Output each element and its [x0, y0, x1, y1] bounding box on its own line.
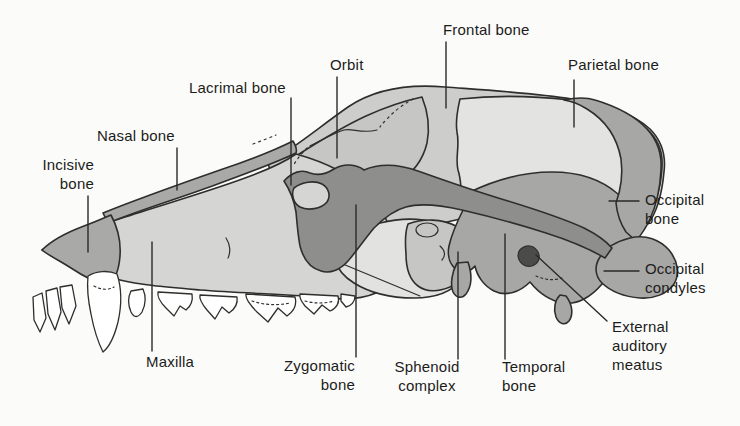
- label-zygomatic-bone: Zygomatic bone: [272, 356, 355, 394]
- pterygoid-process: [452, 262, 471, 297]
- label-occipital-condyles: Occipital condyles: [645, 259, 723, 297]
- label-frontal-bone: Frontal bone: [443, 20, 530, 39]
- label-sphenoid-complex: Sphenoid complex: [385, 357, 469, 395]
- label-occipital-bone: Occipital bone: [645, 190, 717, 228]
- label-incisive-bone: Incisive bone: [28, 155, 94, 193]
- label-lacrimal-bone: Lacrimal bone: [189, 78, 286, 97]
- label-orbit: Orbit: [330, 55, 364, 74]
- label-parietal-bone: Parietal bone: [568, 55, 659, 74]
- label-nasal-bone: Nasal bone: [97, 126, 175, 145]
- label-external-auditory-meatus: External auditory meatus: [612, 317, 682, 374]
- label-maxilla: Maxilla: [146, 352, 194, 371]
- lacrimal-bone-region: [293, 182, 329, 209]
- label-temporal-bone: Temporal bone: [502, 357, 582, 395]
- external-auditory-meatus-spot: [518, 246, 539, 267]
- dog-skull-diagram: Frontal bone Orbit Parietal bone Lacrima…: [0, 0, 740, 426]
